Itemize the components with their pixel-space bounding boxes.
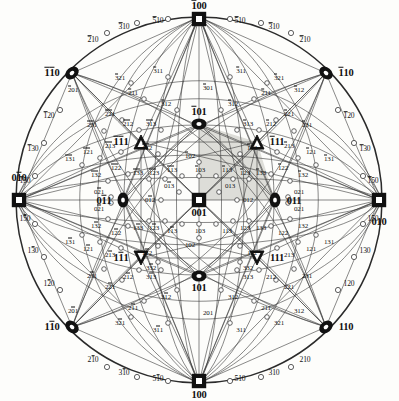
projection-net: [0, 0, 399, 401]
stereographic-projection-figure: 1001000100100011101101101100110111011011…: [0, 0, 399, 401]
